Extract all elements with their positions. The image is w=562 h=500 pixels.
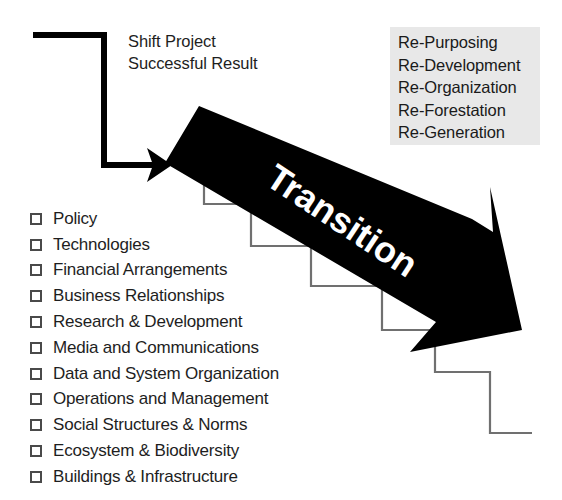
list-item-label: Technologies — [53, 235, 150, 255]
reword-item: Re-Forestation — [398, 99, 540, 122]
list-item-label: Business Relationships — [53, 286, 224, 306]
list-item-label: Buildings & Infrastructure — [53, 467, 238, 487]
list-item-label: Operations and Management — [53, 389, 268, 409]
list-item[interactable]: Business Relationships — [30, 283, 360, 309]
reword-item: Re-Organization — [398, 76, 540, 99]
checkbox-icon[interactable] — [30, 471, 42, 483]
checkbox-icon[interactable] — [30, 316, 42, 328]
list-item[interactable]: Social Structures & Norms — [30, 412, 360, 438]
rewords-panel: Re-Purposing Re-Development Re-Organizat… — [390, 27, 540, 145]
caption-line-1: Shift Project — [128, 30, 328, 52]
list-item-label: Social Structures & Norms — [53, 415, 247, 435]
shift-project-caption: Shift Project Successful Result — [128, 30, 328, 74]
list-item-label: Research & Development — [53, 312, 242, 332]
checkbox-icon[interactable] — [30, 368, 42, 380]
list-item[interactable]: Data and System Organization — [30, 361, 360, 387]
list-item[interactable]: Media and Communications — [30, 335, 360, 361]
list-item-label: Ecosystem & Biodiversity — [53, 441, 239, 461]
list-item[interactable]: Financial Arrangements — [30, 258, 360, 284]
list-item[interactable]: Research & Development — [30, 309, 360, 335]
reword-item: Re-Purposing — [398, 31, 540, 54]
list-item-label: Policy — [53, 209, 97, 229]
caption-line-2: Successful Result — [128, 52, 328, 74]
checkbox-icon[interactable] — [30, 445, 42, 457]
checkbox-icon[interactable] — [30, 290, 42, 302]
diagram-canvas: Re-Purposing Re-Development Re-Organizat… — [0, 0, 562, 500]
list-item[interactable]: Policy — [30, 206, 360, 232]
list-item[interactable]: Ecosystem & Biodiversity — [30, 438, 360, 464]
checkbox-icon[interactable] — [30, 393, 42, 405]
checkbox-icon[interactable] — [30, 239, 42, 251]
reword-item: Re-Development — [398, 54, 540, 77]
list-item-label: Data and System Organization — [53, 364, 279, 384]
list-item[interactable]: Technologies — [30, 232, 360, 258]
reword-item: Re-Generation — [398, 121, 540, 144]
checkbox-icon[interactable] — [30, 419, 42, 431]
transition-checklist: Policy Technologies Financial Arrangemen… — [30, 206, 360, 490]
list-item[interactable]: Buildings & Infrastructure — [30, 464, 360, 490]
list-item[interactable]: Operations and Management — [30, 387, 360, 413]
checkbox-icon[interactable] — [30, 264, 42, 276]
checkbox-icon[interactable] — [30, 342, 42, 354]
checkbox-icon[interactable] — [30, 213, 42, 225]
list-item-label: Media and Communications — [53, 338, 259, 358]
list-item-label: Financial Arrangements — [53, 260, 227, 280]
